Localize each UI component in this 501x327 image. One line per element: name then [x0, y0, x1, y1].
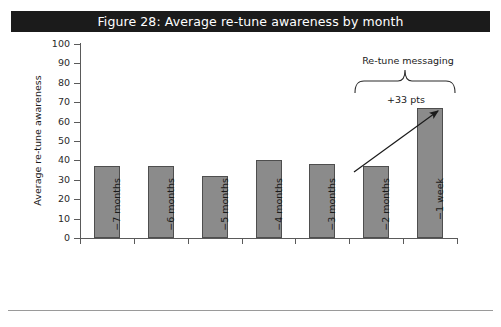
footer-divider [8, 310, 493, 311]
x-tick [403, 238, 404, 244]
annotation-bracket-label: Re-tune messaging [352, 55, 464, 66]
y-tick-label: 50 [30, 135, 70, 146]
x-tick [349, 238, 350, 244]
y-tick-label: 70 [30, 96, 70, 107]
y-tick [74, 63, 80, 64]
y-tick [74, 199, 80, 200]
y-tick-label: 20 [30, 193, 70, 204]
x-tick-label: −4 months [273, 178, 284, 248]
y-tick-label: 40 [30, 154, 70, 165]
x-axis-line [80, 238, 458, 239]
y-tick [74, 44, 80, 45]
chart-figure: Figure 28: Average re-tune awareness by … [0, 0, 501, 327]
arrow-up-right-icon [350, 100, 460, 175]
y-axis-line [80, 43, 81, 239]
x-tick [295, 238, 296, 244]
y-tick-label: 100 [30, 38, 70, 49]
y-tick-label: 10 [30, 213, 70, 224]
x-tick [80, 238, 81, 244]
x-tick-label: −6 months [165, 178, 176, 248]
y-tick-label: 0 [30, 232, 70, 243]
figure-title-bar: Figure 28: Average re-tune awareness by … [11, 11, 490, 32]
x-tick-label: −7 months [111, 178, 122, 248]
x-tick [134, 238, 135, 244]
y-tick [74, 141, 80, 142]
y-tick [74, 83, 80, 84]
y-tick [74, 180, 80, 181]
page-title: Figure 28: Average re-tune awareness by … [97, 14, 403, 29]
curly-brace-icon [352, 68, 458, 94]
x-tick-label: −2 months [380, 178, 391, 248]
x-tick [188, 238, 189, 244]
y-tick-label: 30 [30, 174, 70, 185]
x-tick-label: −1 week [434, 178, 445, 248]
x-tick [457, 238, 458, 244]
x-tick-label: −3 months [326, 178, 337, 248]
y-tick-label: 90 [30, 57, 70, 68]
y-tick [74, 160, 80, 161]
x-tick [242, 238, 243, 244]
y-tick-label: 80 [30, 77, 70, 88]
y-tick [74, 102, 80, 103]
y-tick-label: 60 [30, 116, 70, 127]
y-tick [74, 219, 80, 220]
x-tick-label: −5 months [219, 178, 230, 248]
y-tick [74, 122, 80, 123]
